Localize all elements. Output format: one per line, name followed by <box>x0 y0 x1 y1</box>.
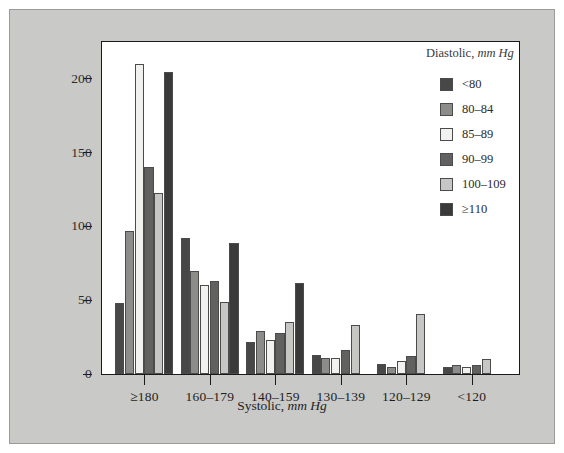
bar <box>285 322 294 374</box>
bar <box>266 340 275 374</box>
bar <box>164 72 173 374</box>
legend-swatch-icon <box>440 78 453 91</box>
y-axis-tick-label: 200 <box>46 71 92 87</box>
legend-swatch-icon <box>440 178 453 191</box>
figure-panel: 050100150200 ≥180160–179140–159130–13912… <box>9 9 555 444</box>
bar <box>472 365 481 374</box>
bar <box>144 167 153 374</box>
legend-item: 85–89 <box>414 122 544 147</box>
bar <box>462 367 471 374</box>
bar <box>246 342 255 374</box>
bar <box>154 193 163 374</box>
y-axis: 050100150200 <box>34 10 92 445</box>
bar-group <box>115 42 174 374</box>
bar <box>125 231 134 374</box>
bar <box>331 358 340 374</box>
y-axis-tick-label: 0 <box>46 366 92 382</box>
bar <box>351 325 360 374</box>
legend-item-label: 80–84 <box>462 102 493 117</box>
y-axis-tick-label: 150 <box>46 145 92 161</box>
legend-item: 100–109 <box>414 172 544 197</box>
legend-item: ≥110 <box>414 197 544 222</box>
legend-swatch-icon <box>440 153 453 166</box>
bar <box>275 333 284 374</box>
legend-title-units: mm Hg <box>477 46 513 60</box>
legend-title: Diastolic, mm Hg <box>414 46 544 61</box>
legend-item-label: ≥110 <box>462 202 487 217</box>
bar <box>210 281 219 374</box>
bar <box>416 314 425 374</box>
legend-item-label: <80 <box>462 77 482 92</box>
bar <box>452 365 461 374</box>
legend-swatch-icon <box>440 128 453 141</box>
legend-title-text: Diastolic, <box>426 46 477 60</box>
legend-item: <80 <box>414 72 544 97</box>
legend-item: 80–84 <box>414 97 544 122</box>
legend-swatch-icon <box>440 203 453 216</box>
bar <box>256 331 265 374</box>
x-axis-tick-mark <box>341 375 342 385</box>
x-axis-title-units: mm Hg <box>287 398 326 413</box>
y-axis-tick-label: 100 <box>46 218 92 234</box>
bar <box>406 356 415 374</box>
x-axis-tick-mark <box>210 375 211 385</box>
x-axis-title-text: Systolic, <box>237 398 287 413</box>
legend-item: 90–99 <box>414 147 544 172</box>
bar <box>200 285 209 374</box>
bar <box>443 367 452 374</box>
x-axis-tick-mark <box>144 375 145 385</box>
bar <box>115 303 124 374</box>
legend: Diastolic, mm Hg <8080–8485–8990–99100–1… <box>414 46 544 222</box>
bar <box>190 271 199 374</box>
y-axis-tick-label: 50 <box>46 292 92 308</box>
bar <box>295 283 304 374</box>
bar <box>397 361 406 374</box>
x-axis-title: Systolic, mm Hg <box>10 398 554 414</box>
bar <box>312 355 321 374</box>
legend-items: <8080–8485–8990–99100–109≥110 <box>414 72 544 222</box>
bar-group <box>246 42 305 374</box>
legend-item-label: 85–89 <box>462 127 493 142</box>
bar <box>377 364 386 374</box>
bar <box>229 243 238 374</box>
bar <box>321 358 330 374</box>
legend-item-label: 100–109 <box>462 177 506 192</box>
legend-item-label: 90–99 <box>462 152 493 167</box>
bar <box>220 302 229 374</box>
bar <box>181 238 190 374</box>
bar <box>341 350 350 374</box>
x-axis-tick-mark <box>406 375 407 385</box>
bar-group <box>181 42 240 374</box>
legend-swatch-icon <box>440 103 453 116</box>
x-axis-tick-mark <box>472 375 473 385</box>
bar <box>387 367 396 374</box>
bar-group <box>312 42 361 374</box>
bar <box>135 64 144 374</box>
bar <box>482 359 491 374</box>
x-axis-tick-mark <box>275 375 276 385</box>
